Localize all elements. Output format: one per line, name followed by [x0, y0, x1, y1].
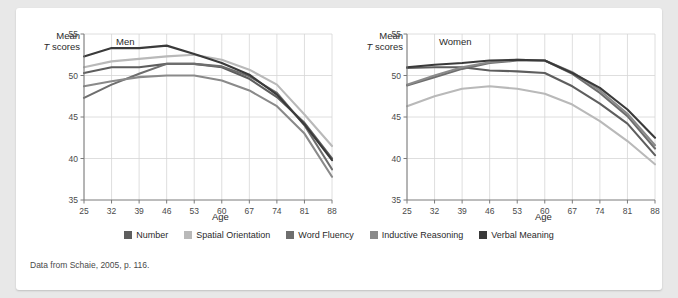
legend-swatch-icon [286, 231, 294, 239]
y-tick-label: 40 [392, 154, 402, 164]
legend-item-label: Number [136, 230, 168, 240]
legend-item: Spatial Orientation [184, 230, 270, 240]
legend-item-label: Word Fluency [298, 230, 353, 240]
y-tick-label: 50 [392, 71, 402, 81]
x-tick-label: 81 [623, 206, 633, 216]
chart-panels: Mean T scores 35404550552532394653606774… [16, 8, 662, 224]
x-tick-label: 46 [485, 206, 495, 216]
source-note: Data from Schaie, 2005, p. 116. [30, 260, 149, 270]
x-tick-label: 81 [300, 206, 310, 216]
chart-legend: NumberSpatial OrientationWord FluencyInd… [16, 230, 662, 240]
x-tick-label: 32 [107, 206, 117, 216]
panel-label-men: Men [116, 36, 134, 47]
y-tick-label: 35 [392, 195, 402, 205]
legend-item: Number [124, 230, 168, 240]
legend-item: Inductive Reasoning [370, 230, 464, 240]
legend-swatch-icon [479, 231, 487, 239]
x-tick-label: 53 [512, 206, 522, 216]
y-tick-label: 50 [69, 71, 79, 81]
x-tick-label: 25 [79, 206, 89, 216]
legend-item-label: Inductive Reasoning [382, 230, 464, 240]
figure-card: Mean T scores 35404550552532394653606774… [16, 8, 662, 290]
x-tick-label: 74 [272, 206, 282, 216]
x-axis-name-women: Age [535, 211, 552, 222]
x-tick-label: 88 [650, 206, 660, 216]
x-tick-label: 32 [430, 206, 440, 216]
x-tick-label: 74 [595, 206, 605, 216]
y-tick-label: 55 [69, 29, 79, 39]
x-tick-label: 46 [162, 206, 172, 216]
chart-panel-men: Mean T scores 35404550552532394653606774… [16, 8, 339, 224]
y-tick-label: 45 [392, 112, 402, 122]
x-axis-name-men: Age [212, 211, 229, 222]
legend-item: Word Fluency [286, 230, 353, 240]
x-tick-label: 25 [402, 206, 412, 216]
x-tick-label: 39 [134, 206, 144, 216]
chart-panel-women: Mean T scores 35404550552532394653606774… [339, 8, 662, 224]
legend-swatch-icon [124, 231, 132, 239]
y-tick-label: 55 [392, 29, 402, 39]
y-tick-label: 35 [69, 195, 79, 205]
legend-item: Verbal Meaning [479, 230, 554, 240]
y-tick-label: 45 [69, 112, 79, 122]
legend-item-label: Verbal Meaning [491, 230, 554, 240]
x-tick-label: 67 [568, 206, 578, 216]
x-tick-label: 67 [245, 206, 255, 216]
legend-item-label: Spatial Orientation [196, 230, 270, 240]
x-tick-label: 53 [189, 206, 199, 216]
legend-swatch-icon [184, 231, 192, 239]
legend-swatch-icon [370, 231, 378, 239]
x-tick-label: 88 [327, 206, 337, 216]
line-chart-women: 354045505525323946536067748188 [339, 8, 662, 224]
line-chart-men: 354045505525323946536067748188 [16, 8, 339, 224]
panel-label-women: Women [439, 36, 472, 47]
x-tick-label: 39 [457, 206, 467, 216]
y-tick-label: 40 [69, 154, 79, 164]
